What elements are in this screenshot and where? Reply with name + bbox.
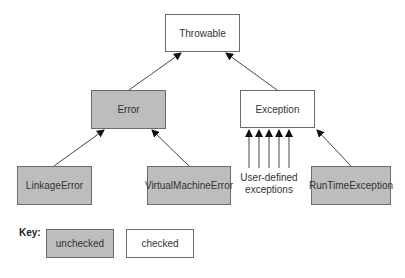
node-error: Error — [91, 90, 166, 129]
node-linkage-error: LinkageError — [17, 166, 92, 205]
caption-line1: User-defined — [236, 172, 302, 184]
node-virtual-machine-error: VirtualMachineError — [147, 166, 231, 205]
node-label: VirtualMachineError — [145, 180, 233, 191]
caption-line2: exceptions — [236, 184, 302, 196]
key-item-label: checked — [141, 238, 178, 249]
node-label: Error — [117, 104, 139, 115]
key-item-label: unchecked — [56, 238, 104, 249]
node-label: RunTimeException — [309, 180, 393, 191]
key-checked: checked — [126, 229, 194, 258]
key-label: Key: — [19, 227, 41, 238]
node-throwable: Throwable — [165, 14, 240, 52]
node-exception: Exception — [240, 90, 315, 128]
node-label: Exception — [256, 104, 300, 115]
user-defined-caption: User-defined exceptions — [236, 172, 302, 196]
key-unchecked: unchecked — [46, 229, 114, 258]
node-label: Throwable — [179, 28, 226, 39]
node-runtime-exception: RunTimeException — [311, 166, 391, 205]
node-label: LinkageError — [26, 180, 83, 191]
